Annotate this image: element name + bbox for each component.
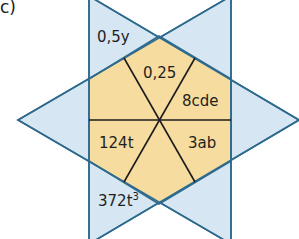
label-top-point: 0,5y — [97, 28, 130, 46]
label-sector-left: 124t — [99, 134, 134, 152]
diagram-canvas: 0,5y 0,25 8cde 124t 3ab 372t3 — [0, 0, 299, 239]
label-sector-upper-right: 8cde — [182, 92, 219, 110]
star-hexagon-diagram: c) 0,5y 0,25 8cde 124t 3ab 372t3 — [0, 0, 299, 239]
label-sector-lower-right: 3ab — [188, 134, 216, 152]
label-sector-top: 0,25 — [143, 64, 176, 82]
label-bottom-base: 372t — [98, 192, 133, 210]
label-bottom-exponent: 3 — [133, 191, 139, 202]
task-label: c) — [0, 0, 16, 17]
